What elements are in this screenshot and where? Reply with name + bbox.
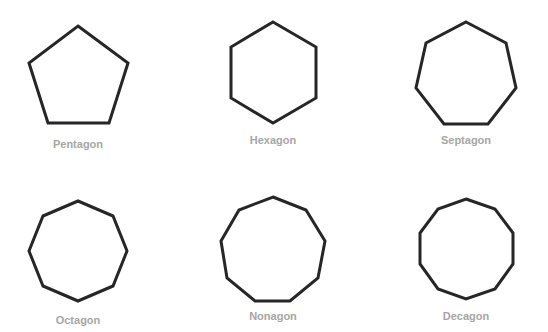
septagon-shape [416,22,516,124]
nonagon-shape [221,197,325,301]
octagon-shape [29,201,127,301]
hexagon-shape [231,22,316,123]
hexagon-label: Hexagon [250,134,296,146]
decagon-label: Decagon [443,310,489,322]
pentagon-label: Pentagon [53,138,103,150]
pentagon-shape [29,26,128,123]
polygon-diagram [0,0,548,332]
octagon-label: Octagon [56,314,101,326]
decagon-shape [420,199,513,299]
nonagon-label: Nonagon [249,310,297,322]
septagon-label: Septagon [441,134,491,146]
